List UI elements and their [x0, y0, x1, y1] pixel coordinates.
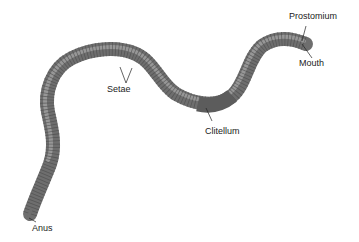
- label-setae: Setae: [107, 84, 131, 94]
- earthworm-diagram: Prostomium Mouth Setae Clitellum Anus: [0, 0, 359, 242]
- earthworm-illustration: [0, 0, 359, 242]
- label-anus: Anus: [32, 223, 53, 233]
- label-clitellum: Clitellum: [205, 126, 240, 136]
- label-prostomium: Prostomium: [289, 11, 337, 21]
- worm-body: [30, 39, 306, 214]
- label-mouth: Mouth: [299, 58, 324, 68]
